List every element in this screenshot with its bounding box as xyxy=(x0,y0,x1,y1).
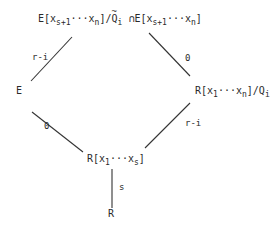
node-middle: R[x1···xs] xyxy=(87,153,145,165)
node-left-text: E xyxy=(16,85,22,96)
node-left: E xyxy=(16,85,22,97)
q-sub: i xyxy=(118,18,123,27)
edge-label-left-top: r-i xyxy=(32,52,48,62)
right-prefix: R[x xyxy=(195,85,213,96)
node-bottom: R xyxy=(108,208,114,220)
top-right-prefix: E[x xyxy=(134,13,152,24)
top-left-suffix: ]/ xyxy=(99,13,111,24)
top-left-prefix: E[x xyxy=(38,13,56,24)
top-right-dots: ···x xyxy=(167,13,191,24)
right-suffix: ]/Q xyxy=(247,85,265,96)
top-right-sub1: s+1 xyxy=(152,18,166,27)
node-top: E[xs+1···xn]/Qi ∩E[xs+1···xn] xyxy=(38,13,202,25)
node-right: R[x1···xn]/Qi xyxy=(195,85,270,97)
diagram-edges xyxy=(0,0,279,230)
top-left-dots: ···x xyxy=(71,13,95,24)
edge-label-bottom-middle: s xyxy=(119,182,124,192)
middle-suffix: ] xyxy=(139,153,145,164)
top-left-sub1: s+1 xyxy=(56,18,70,27)
edge-left-middle xyxy=(32,112,83,152)
middle-dots: ···x xyxy=(110,153,134,164)
edge-right-middle xyxy=(145,103,190,148)
q-tilde: Q xyxy=(111,13,117,25)
q-letter: Q xyxy=(111,13,117,24)
top-right-suffix: ] xyxy=(196,13,202,24)
edge-label-right-top: 0 xyxy=(185,53,190,63)
edge-label-right-middle: r-i xyxy=(185,118,201,128)
edge-right-top xyxy=(149,33,190,76)
node-bottom-text: R xyxy=(108,208,114,219)
right-dots: ···x xyxy=(218,85,242,96)
middle-prefix: R[x xyxy=(87,153,105,164)
edge-label-left-middle: 0 xyxy=(44,121,49,131)
right-sub3: i xyxy=(265,90,270,99)
